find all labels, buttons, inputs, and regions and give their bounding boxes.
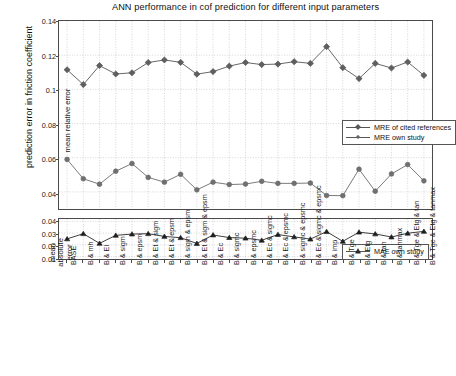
x-tick-label: B & sigm: [118, 236, 127, 265]
data-point: [243, 182, 248, 187]
legend-label: MRE of cited references: [374, 123, 451, 133]
legend-entry-mre-own: MRE own study: [346, 133, 451, 143]
x-tick-label: B & Ec: [216, 243, 225, 265]
y-tick-mark: [56, 56, 59, 57]
legend-line-icon: [346, 127, 370, 128]
x-tick-label: B & Et & sigm: [151, 221, 160, 265]
x-tick-mark: [376, 260, 377, 263]
data-point: [211, 180, 216, 185]
x-tick-mark: [164, 260, 165, 263]
mre-legend: MRE of cited references MRE own study: [342, 120, 456, 145]
data-point: [129, 70, 135, 76]
y-tick-label: 0.04: [42, 189, 56, 198]
x-tick-label: B & epsmc: [249, 230, 258, 265]
data-point: [242, 59, 248, 65]
x-tick-mark: [229, 260, 230, 263]
x-tick-mark: [197, 260, 198, 263]
figure-y-axis-label: prediction error in friction coefficient: [24, 12, 34, 182]
y-tick-mark: [56, 125, 59, 126]
data-point: [259, 62, 265, 68]
x-tick-label: B & El: [102, 245, 111, 265]
x-tick-label: B & mh: [86, 241, 95, 265]
data-point: [194, 71, 200, 77]
x-tick-label: B & imp: [330, 240, 339, 265]
x-tick-label: B & Etg: [363, 241, 372, 265]
x-tick-mark: [425, 260, 426, 263]
legend-label: MRE own study: [374, 133, 424, 143]
y-tick-label: 0.02: [42, 242, 56, 251]
data-point: [291, 59, 297, 65]
subplot-mean-absolute-error: mean absolute error 0.040.030.020.01 MAE…: [58, 218, 433, 260]
x-tick-mark: [343, 260, 344, 263]
data-point: [210, 69, 216, 75]
data-point: [405, 162, 410, 167]
x-tick-mark: [262, 260, 263, 263]
x-tick-label: B & Et & sigm & epsm: [200, 194, 209, 265]
x-tick-label: B & sigm & epsm: [183, 210, 192, 265]
x-tick-mark: [311, 260, 312, 263]
data-point: [178, 59, 184, 65]
x-tick-mark: [213, 260, 214, 263]
data-point: [340, 239, 345, 243]
legend-entry-mre-cited: MRE of cited references: [346, 123, 451, 133]
x-tick-mark: [66, 260, 67, 263]
x-tick-mark: [115, 260, 116, 263]
data-point: [421, 229, 426, 233]
x-tick-mark: [131, 260, 132, 263]
data-point: [227, 182, 232, 187]
y-tick-mark: [56, 234, 59, 235]
mre-y-axis-label: mean relative error: [63, 61, 72, 181]
chart-title: ANN performance in cof prediction for di…: [58, 2, 433, 12]
data-point: [113, 71, 119, 77]
circle-marker-icon: [355, 134, 361, 140]
data-point: [324, 229, 329, 233]
data-point: [422, 178, 427, 183]
data-point: [357, 167, 362, 172]
x-tick-label: BASE: [69, 246, 78, 265]
y-tick-label: 0.08: [42, 120, 56, 129]
data-point: [162, 180, 167, 185]
mre-plot-area: [59, 21, 432, 209]
data-point: [130, 161, 135, 166]
y-tick-mark: [56, 159, 59, 160]
x-tick-label: B & epsm: [135, 234, 144, 265]
x-tick-label: B & Et & epsm: [167, 218, 176, 265]
data-point: [146, 175, 151, 180]
data-point: [226, 63, 232, 69]
x-tick-mark: [327, 260, 328, 263]
x-tick-label: B & Ec & sigmc & epsmc: [314, 186, 323, 265]
data-point: [113, 169, 118, 174]
x-tick-mark: [148, 260, 149, 263]
x-tick-label: B & Ec & sigmc: [265, 215, 274, 265]
y-tick-label: 0.12: [42, 51, 56, 60]
x-tick-mark: [246, 260, 247, 263]
y-tick-label: 0.1: [46, 86, 56, 95]
y-tick-label: 0.03: [42, 229, 56, 238]
diamond-marker-icon: [355, 124, 361, 130]
data-point: [389, 172, 394, 177]
x-tick-mark: [392, 260, 393, 263]
data-point: [161, 57, 167, 63]
data-point: [81, 231, 86, 235]
x-tick-label: B & Tge: [347, 239, 356, 265]
x-tick-mark: [409, 260, 410, 263]
y-tick-label: 0.06: [42, 155, 56, 164]
data-point: [81, 176, 86, 181]
x-tick-label: B & tan: [379, 241, 388, 265]
y-tick-label: 0.01: [42, 254, 56, 263]
data-point: [275, 61, 281, 67]
x-tick-label: B & Tge & Etg & tanmax: [428, 187, 437, 265]
y-tick-mark: [56, 21, 59, 22]
data-point: [145, 59, 151, 65]
x-tick-mark: [360, 260, 361, 263]
x-tick-mark: [180, 260, 181, 263]
data-point: [340, 193, 345, 198]
x-tick-mark: [278, 260, 279, 263]
data-point: [178, 172, 183, 177]
data-point: [308, 181, 313, 186]
x-tick-label: B & Tge & Etg & tan: [412, 201, 421, 265]
data-point: [388, 65, 394, 71]
x-axis-tick-labels: BASEB & mhB & ElB & sigmB & epsmB & Et &…: [58, 260, 433, 376]
x-tick-label: B & tanmax: [395, 228, 404, 265]
